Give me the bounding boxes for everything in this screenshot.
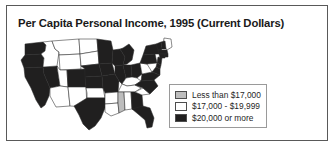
legend-swatch-mid-icon [175, 102, 187, 111]
state-ia [99, 63, 115, 76]
state-la [105, 103, 119, 116]
figure-frame: Per Capita Personal Income, 1995 (Curren… [6, 5, 328, 141]
state-wv [140, 63, 152, 74]
us-choropleth-map [19, 36, 179, 134]
legend-item-mid: $17,000 - $19,999 [175, 101, 261, 113]
state-sd [80, 51, 99, 66]
legend-label-mid: $17,000 - $19,999 [192, 102, 260, 110]
map-legend: Less than $17,000 $17,000 - $19,999 $20,… [169, 84, 267, 128]
legend-item-low: Less than $17,000 [175, 89, 261, 101]
legend-swatch-high-icon [175, 114, 187, 123]
state-co [67, 69, 86, 87]
chart-title: Per Capita Personal Income, 1995 (Curren… [18, 17, 318, 29]
state-al [124, 92, 132, 110]
state-ks [85, 76, 103, 88]
state-or [21, 54, 44, 68]
state-az [50, 86, 70, 107]
state-pa [140, 54, 157, 64]
state-ok [86, 88, 105, 98]
state-ri [165, 54, 168, 57]
map-svg [19, 36, 179, 134]
state-mn [97, 39, 113, 64]
state-nh [161, 41, 166, 49]
legend-item-high: $20,000 or more [175, 112, 261, 124]
legend-swatch-low-icon [175, 91, 187, 100]
legend-label-low: Less than $17,000 [192, 91, 261, 99]
state-ma [158, 50, 168, 54]
state-wy [59, 54, 81, 70]
legend-label-high: $20,000 or more [192, 114, 253, 122]
state-fl [132, 106, 154, 128]
state-ar [105, 92, 118, 104]
